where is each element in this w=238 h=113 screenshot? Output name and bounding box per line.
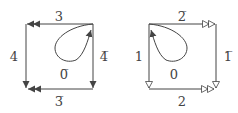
label-bottom-left-square: 3̅ [55, 94, 63, 109]
label-top-right-square: 2̅ [178, 9, 186, 24]
label-left-right-square: 1 [135, 49, 143, 64]
loop-left-square [55, 24, 93, 61]
loop-right-square [149, 24, 187, 61]
right-square: 2̅ 1 1̅ 2 0 [135, 9, 232, 109]
label-left-left-square: 4 [10, 49, 18, 64]
label-loop-left-square: 0̅ [60, 67, 68, 82]
label-bottom-right-square: 2 [178, 94, 186, 109]
label-right-left-square: 4̅ [100, 49, 108, 64]
label-loop-right-square: 0 [170, 67, 178, 82]
label-top-left-square: 3 [55, 9, 63, 24]
diagram-canvas: 3 4 4̅ 3̅ 0̅ 2̅ 1 1̅ 2 0 [0, 0, 238, 113]
left-square: 3 4 4̅ 3̅ 0̅ [10, 9, 108, 109]
label-right-right-square: 1̅ [224, 49, 232, 64]
